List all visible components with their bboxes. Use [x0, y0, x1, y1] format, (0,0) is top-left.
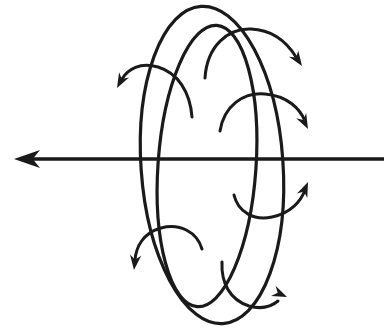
- diagram-background: [0, 0, 384, 335]
- torus-diagram-canvas: Torus with rotation axis and circulating…: [0, 0, 384, 335]
- diagram-svg: [0, 0, 384, 335]
